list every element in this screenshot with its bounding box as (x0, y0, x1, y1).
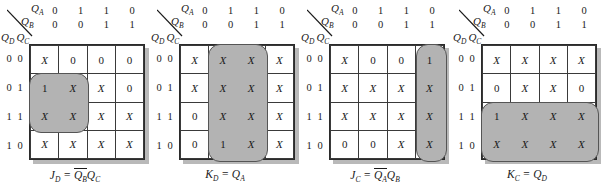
kmap-cell-2-3[interactable]: X (567, 102, 595, 130)
kmap-cell-2-2[interactable]: X (539, 102, 567, 130)
kmap-cell-3-2[interactable]: X (237, 130, 265, 158)
row-bit-1-1: 1 (165, 82, 176, 93)
row-bit-1-0: 0 (4, 82, 15, 93)
kmap-cell-1-1[interactable]: X (511, 74, 539, 102)
kmap-cell-3-1[interactable]: X (59, 130, 87, 158)
kmap-cell-1-2[interactable]: X (237, 74, 265, 102)
kmap-cell-3-0[interactable]: 0 (181, 130, 209, 158)
kmap-cell-3-1[interactable]: 1 (209, 130, 237, 158)
kmap-cell-3-3[interactable]: X (415, 130, 443, 158)
kmap-cell-2-3[interactable]: X (115, 102, 143, 130)
row-bit-0-0: 0 (154, 53, 165, 64)
kmap-cell-2-3[interactable]: X (415, 102, 443, 130)
column-header-qb-values: 0011 (29, 18, 145, 31)
row-bit-2-0: 1 (154, 111, 165, 122)
qa-bit-3: 0 (269, 4, 295, 17)
kmap-cell-3-2[interactable]: X (87, 130, 115, 158)
row-label-0: 00 (452, 44, 481, 73)
kmap-cell-1-3[interactable]: 0 (567, 74, 595, 102)
column-header-qa-values: 0110 (329, 4, 445, 17)
kmap-cell-0-1[interactable]: X (511, 46, 539, 74)
kmap-cell-0-0[interactable]: X (331, 46, 359, 74)
kmap-cell-0-1[interactable]: 0 (359, 46, 387, 74)
kmap-cell-1-0[interactable]: X (181, 74, 209, 102)
row-bit-2-0: 1 (304, 111, 315, 122)
kmap-inner-kd: XXXXXXXX0XXX01XXQAQB01100011QDQC00011110… (150, 0, 300, 192)
kmap-cell-1-0[interactable]: 1 (31, 74, 59, 102)
qb-bit-3: 1 (269, 18, 295, 31)
row-bit-3-0: 1 (154, 140, 165, 151)
kmap-cell-3-0[interactable]: X (31, 130, 59, 158)
equation-kd: KD = QA (150, 168, 300, 183)
kmap-cell-3-1[interactable]: X (511, 130, 539, 158)
kmap-cell-0-0[interactable]: X (483, 46, 511, 74)
kmap-cell-0-0[interactable]: X (31, 46, 59, 74)
kmap-jc: X001XXXXXXXX00XXQAQB01100011QDQC00011110… (300, 0, 450, 192)
row-label-1: 01 (150, 73, 179, 102)
kmap-cell-3-3[interactable]: X (265, 130, 293, 158)
kmap-cell-1-2[interactable]: X (87, 74, 115, 102)
qa-bit-1: 1 (218, 4, 244, 17)
kmap-cell-2-3[interactable]: X (265, 102, 293, 130)
kmap-cell-0-2[interactable]: 0 (387, 46, 415, 74)
row-bit-3-1: 0 (165, 140, 176, 151)
kmap-cell-2-1[interactable]: X (209, 102, 237, 130)
equation-kc: KC = QD (452, 168, 602, 183)
kmap-cell-3-1[interactable]: 0 (359, 130, 387, 158)
kmap-cell-3-0[interactable]: 0 (331, 130, 359, 158)
kmap-cell-3-3[interactable]: X (567, 130, 595, 158)
kmap-cell-3-0[interactable]: X (483, 130, 511, 158)
kmap-cell-2-0[interactable]: 1 (483, 102, 511, 130)
kmap-row: XXXX (31, 130, 144, 158)
kmap-grid-jc: X001XXXXXXXX00XX (329, 44, 445, 160)
kmap-cell-0-1[interactable]: X (209, 46, 237, 74)
kmap-cell-2-2[interactable]: X (87, 102, 115, 130)
kmap-row: XXXX (483, 46, 596, 74)
row-bit-2-1: 1 (15, 111, 26, 122)
kmap-cell-2-0[interactable]: X (31, 102, 59, 130)
kmap-cell-2-0[interactable]: 0 (181, 102, 209, 130)
kmap-row: XXXX (181, 46, 294, 74)
qb-bit-1: 0 (368, 18, 394, 31)
row-label-3: 10 (452, 131, 481, 160)
kmap-cell-0-3[interactable]: X (265, 46, 293, 74)
kmap-row: 1XXX (483, 102, 596, 130)
kmap-cell-2-1[interactable]: X (59, 102, 87, 130)
kmap-cell-1-3[interactable]: X (265, 74, 293, 102)
row-bit-1-1: 1 (15, 82, 26, 93)
kmap-cell-0-1[interactable]: 0 (59, 46, 87, 74)
kmap-cell-1-1[interactable]: X (209, 74, 237, 102)
row-bit-1-0: 0 (456, 82, 467, 93)
kmap-cell-3-2[interactable]: X (539, 130, 567, 158)
kmap-cell-1-1[interactable]: X (59, 74, 87, 102)
kmap-cell-1-3[interactable]: X (415, 74, 443, 102)
kmap-cell-0-3[interactable]: X (567, 46, 595, 74)
kmap-row: XXXX (31, 102, 144, 130)
row-bit-0-1: 0 (467, 53, 478, 64)
kmap-cell-2-1[interactable]: X (359, 102, 387, 130)
qb-bit-3: 1 (419, 18, 445, 31)
kmap-cell-2-1[interactable]: X (511, 102, 539, 130)
kmap-cell-0-3[interactable]: 1 (415, 46, 443, 74)
kmap-cell-1-2[interactable]: X (539, 74, 567, 102)
qa-bit-2: 1 (244, 4, 270, 17)
kmap-row: 0XXX (181, 102, 294, 130)
kmap-cell-0-3[interactable]: 0 (115, 46, 143, 74)
kmap-cell-0-2[interactable]: X (237, 46, 265, 74)
header-diagonal-divider-icon (307, 6, 333, 34)
kmap-cell-2-2[interactable]: X (387, 102, 415, 130)
kmap-cell-1-3[interactable]: 0 (115, 74, 143, 102)
kmap-cell-2-2[interactable]: X (237, 102, 265, 130)
kmap-cell-3-3[interactable]: X (115, 130, 143, 158)
kmap-cell-2-0[interactable]: X (331, 102, 359, 130)
kmap-cell-1-0[interactable]: 0 (483, 74, 511, 102)
kmap-cell-1-1[interactable]: X (359, 74, 387, 102)
row-header-values: 00011110 (300, 44, 329, 160)
kmap-table-jc: X001XXXXXXXX00XX (330, 45, 444, 159)
kmap-cell-0-2[interactable]: 0 (87, 46, 115, 74)
kmap-cell-0-0[interactable]: X (181, 46, 209, 74)
kmap-cell-1-0[interactable]: X (331, 74, 359, 102)
kmap-cell-3-2[interactable]: X (387, 130, 415, 158)
kmap-cell-0-2[interactable]: X (539, 46, 567, 74)
kmap-cell-1-2[interactable]: X (387, 74, 415, 102)
